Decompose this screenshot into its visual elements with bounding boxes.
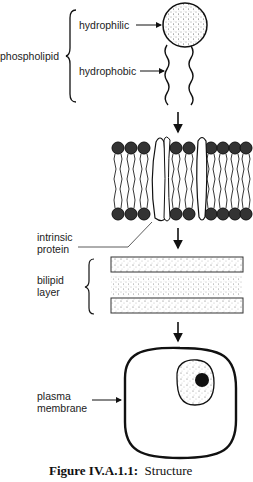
upper-heads (112, 142, 252, 154)
lower-heads (112, 208, 252, 220)
cell (125, 348, 236, 458)
label-phospholipid: phospholipid (0, 50, 59, 62)
label-hydrophobic: hydrophobic (79, 65, 136, 77)
label-layer: layer (37, 286, 60, 298)
intrinsic-protein-3 (197, 138, 207, 221)
phospholipid-molecule (163, 3, 207, 105)
bilipid-layer (111, 257, 243, 313)
lipid-tails (114, 154, 250, 208)
nucleolus (195, 373, 209, 387)
intrinsic-protein-leader (78, 222, 152, 247)
membrane-section (112, 137, 252, 221)
label-bilipid: bilipid (37, 274, 64, 286)
label-plasma: plasma (37, 390, 71, 402)
bilipid-brace (85, 259, 94, 314)
label-intrinsic: intrinsic (37, 231, 73, 243)
phospholipid-brace (66, 10, 76, 102)
intrinsic-protein-2 (164, 137, 170, 221)
label-protein: protein (37, 243, 69, 255)
label-membrane: membrane (37, 402, 87, 414)
figure-number: Figure IV.A.1.1: (49, 463, 138, 478)
figure-caption: Figure IV.A.1.1: Structure (49, 463, 192, 479)
label-hydrophilic: hydrophilic (79, 19, 129, 31)
figure-title: Structure (145, 463, 193, 478)
